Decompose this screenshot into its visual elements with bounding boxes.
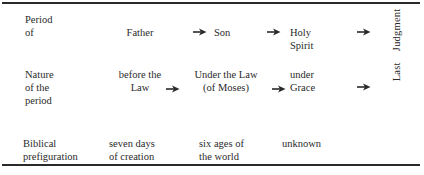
row-label-nature-of-period: Nature of the period [25, 68, 54, 107]
right-arrow-icon [193, 28, 207, 36]
cell-holy-spirit: Holy Spirit [290, 26, 313, 52]
label-line: period [25, 94, 54, 107]
right-arrow-icon [272, 85, 286, 93]
cell-line: Grace [290, 81, 315, 94]
cell-son: Son [214, 26, 230, 39]
last-judgment-label: Last Judgment [389, 8, 402, 82]
cell-under-the-law: Under the Law (of Moses) [186, 68, 266, 94]
label-line: Period [25, 13, 52, 26]
cell-line: Spirit [290, 39, 313, 52]
cell-six-ages: six ages of the world [199, 137, 244, 163]
right-arrow-icon [357, 83, 371, 91]
cell-line: unknown [282, 137, 321, 150]
right-arrow-icon [166, 85, 180, 93]
cell-line: Holy [290, 26, 313, 39]
label-line: of [25, 26, 52, 39]
cell-line: Under the Law [186, 68, 266, 81]
label-line: of the [25, 81, 54, 94]
cell-line: under [290, 68, 315, 81]
row-label-period-of: Period of [25, 13, 52, 39]
cell-line: before the [100, 68, 180, 81]
top-rule [2, 2, 420, 4]
cell-line: the world [199, 150, 244, 163]
cell-line: Father [100, 26, 180, 39]
cell-under-grace: under Grace [290, 68, 315, 94]
side-label-text: Last Judgment [389, 9, 402, 82]
right-arrow-icon [357, 28, 371, 36]
cell-father: Father [100, 26, 180, 39]
row-label-biblical-prefiguration: Biblical prefiguration [23, 137, 78, 163]
cell-unknown: unknown [282, 137, 321, 150]
label-line: prefiguration [23, 150, 78, 163]
cell-line: Son [214, 26, 230, 39]
bottom-rule [2, 164, 420, 166]
label-line: Nature [25, 68, 54, 81]
cell-line: of creation [109, 150, 155, 163]
cell-line: six ages of [199, 137, 244, 150]
right-arrow-icon [267, 28, 281, 36]
cell-seven-days: seven days of creation [109, 137, 155, 163]
cell-line: seven days [109, 137, 155, 150]
label-line: Biblical [23, 137, 78, 150]
cell-line: (of Moses) [186, 81, 266, 94]
